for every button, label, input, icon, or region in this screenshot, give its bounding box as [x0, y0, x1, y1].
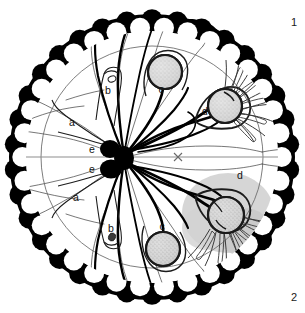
- label-e-bottom: e: [89, 163, 95, 175]
- panel-number-top-right: 1: [291, 16, 297, 28]
- label-c-bottom: c: [159, 220, 164, 232]
- biological-diagram: a a b b c c d d e e: [0, 0, 305, 313]
- label-b-top: b: [105, 84, 111, 96]
- figure-canvas: a a b b c c d d e e 1 2: [0, 0, 305, 313]
- label-a-bottom: a: [73, 191, 79, 203]
- label-e-top: e: [89, 143, 95, 155]
- label-a-top: a: [69, 116, 75, 128]
- label-c-top: c: [158, 83, 163, 95]
- panel-number-bottom-right: 2: [291, 291, 297, 303]
- label-d-bottom: d: [237, 169, 243, 181]
- label-d-top: d: [202, 105, 208, 117]
- label-b-bottom: b: [108, 222, 114, 234]
